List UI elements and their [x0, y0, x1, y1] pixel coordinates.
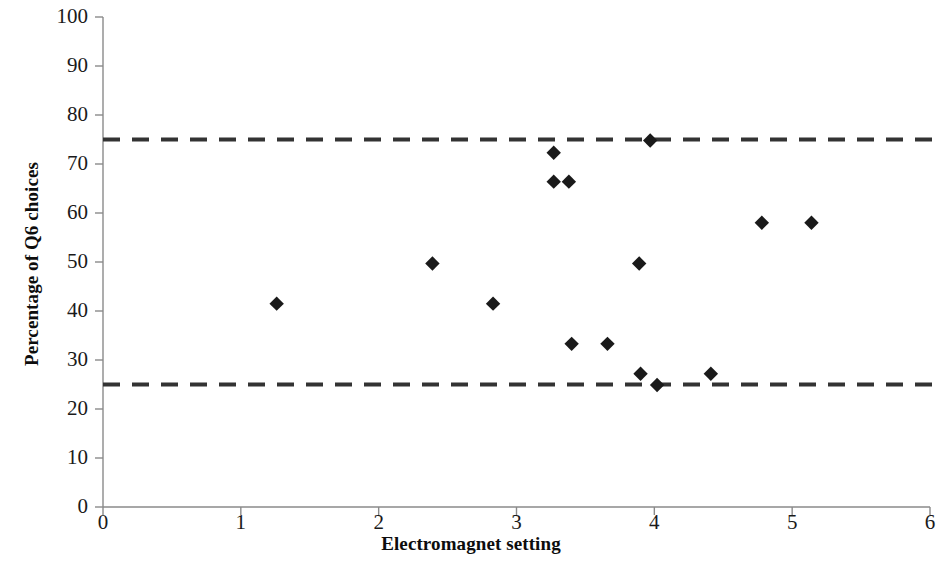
reference-lines	[103, 140, 942, 385]
data-point-marker	[600, 337, 614, 351]
data-point-marker	[755, 216, 769, 230]
data-point-marker	[486, 296, 500, 310]
plot-canvas	[0, 0, 942, 570]
x-axis-tick-label: 2	[359, 512, 399, 533]
data-point-marker	[564, 337, 578, 351]
y-axis-title: Percentage of Q6 choices	[21, 114, 43, 414]
x-axis-title: Electromagnet setting	[0, 533, 942, 555]
axis-lines	[103, 17, 930, 507]
x-axis-tick-label: 4	[634, 512, 674, 533]
data-point-marker	[643, 133, 657, 147]
x-axis-tick-label: 3	[497, 512, 537, 533]
scatter-chart-figure: 1009080706050403020100 0123456 Percentag…	[0, 0, 942, 570]
x-axis-tick-label: 0	[83, 512, 123, 533]
y-axis-tick-label: 90	[30, 55, 88, 76]
x-axis-tick-label: 5	[772, 512, 812, 533]
data-point-marker	[804, 216, 818, 230]
y-axis-tick-label: 0	[30, 496, 88, 517]
data-point-marker	[547, 174, 561, 188]
x-axis-tick-label: 6	[910, 512, 942, 533]
data-point-marker	[632, 256, 646, 270]
data-point-marker	[633, 367, 647, 381]
y-axis-tick-label: 100	[30, 6, 88, 27]
x-axis-tick-label: 1	[221, 512, 261, 533]
y-axis-ticks	[95, 17, 103, 507]
data-point-marker	[547, 146, 561, 160]
data-point-marker	[562, 174, 576, 188]
y-axis-tick-label: 10	[30, 447, 88, 468]
data-point-marker	[269, 296, 283, 310]
data-point-marker	[425, 256, 439, 270]
data-point-marker	[704, 367, 718, 381]
data-point-marker	[650, 378, 664, 392]
data-point-series	[269, 133, 818, 392]
